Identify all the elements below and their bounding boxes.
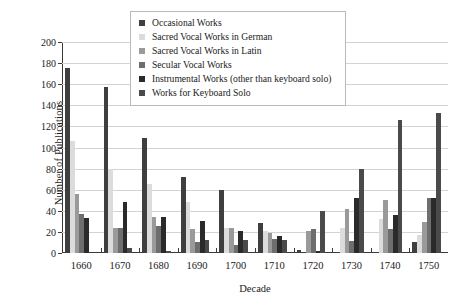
legend-label: Secular Vocal Works — [152, 60, 232, 70]
bars — [62, 42, 101, 253]
legend-swatch-icon — [139, 90, 145, 96]
legend-swatch-icon — [139, 20, 145, 26]
legend-item-4[interactable]: Instrumental Works (other than keyboard … — [139, 72, 339, 86]
bar[interactable] — [243, 240, 248, 253]
bar-group-1660: 1660 — [62, 42, 101, 253]
bar[interactable] — [127, 248, 132, 253]
y-tick-label: 80 — [46, 163, 56, 174]
legend-item-1[interactable]: Sacred Vocal Works in German — [139, 30, 339, 44]
y-tick-label: 120 — [41, 121, 56, 132]
x-tick-mark — [409, 248, 410, 253]
bar[interactable] — [297, 250, 302, 253]
y-tick-mark — [58, 253, 62, 254]
bars — [409, 42, 448, 253]
y-tick-label: 100 — [41, 142, 56, 153]
x-tick-label: 1740 — [380, 260, 401, 271]
bar[interactable] — [205, 240, 210, 253]
legend-swatch-icon — [139, 76, 145, 82]
bar[interactable] — [398, 120, 403, 253]
y-tick-label: 20 — [46, 226, 56, 237]
y-tick-label: 180 — [41, 58, 56, 69]
legend-item-2[interactable]: Sacred Vocal Works in Latin — [139, 44, 339, 58]
x-tick-mark — [255, 248, 256, 253]
x-tick-mark — [371, 248, 372, 253]
legend-item-0[interactable]: Occasional Works — [139, 16, 339, 30]
bar[interactable] — [436, 113, 441, 253]
x-tick-label: 1700 — [225, 260, 246, 271]
bar[interactable] — [161, 217, 166, 253]
bar[interactable] — [320, 211, 325, 253]
bar[interactable] — [123, 202, 128, 253]
legend-swatch-icon — [139, 34, 145, 40]
x-tick-label: 1750 — [418, 260, 439, 271]
x-tick-label: 1690 — [187, 260, 208, 271]
x-tick-mark — [332, 248, 333, 253]
bar[interactable] — [359, 169, 364, 253]
publications-bar-chart: Number of Publications 02040608010012014… — [0, 0, 453, 306]
legend-label: Instrumental Works (other than keyboard … — [152, 74, 331, 84]
bar-group-1740: 1740 — [371, 42, 410, 253]
bar-group-1750: 1750 — [409, 42, 448, 253]
legend-swatch-icon — [139, 62, 145, 68]
x-tick-mark — [139, 248, 140, 253]
bar[interactable] — [311, 229, 316, 253]
bar[interactable] — [282, 240, 287, 253]
legend-label: Works for Keyboard Solo — [152, 88, 251, 98]
x-tick-mark — [101, 248, 102, 253]
x-tick-label: 1680 — [148, 260, 169, 271]
y-tick-label: 200 — [41, 37, 56, 48]
legend-item-5[interactable]: Works for Keyboard Solo — [139, 86, 339, 100]
y-tick-label: 40 — [46, 205, 56, 216]
legend-label: Sacred Vocal Works in Latin — [152, 46, 262, 56]
y-tick-label: 140 — [41, 100, 56, 111]
bar[interactable] — [166, 251, 171, 253]
x-tick-label: 1660 — [71, 260, 92, 271]
y-tick-label: 160 — [41, 79, 56, 90]
legend-label: Occasional Works — [152, 18, 222, 28]
x-tick-label: 1710 — [264, 260, 285, 271]
x-tick-mark — [294, 248, 295, 253]
legend-swatch-icon — [139, 48, 145, 54]
y-tick-label: 60 — [46, 184, 56, 195]
bar[interactable] — [84, 218, 89, 253]
bars — [371, 42, 410, 253]
x-axis-title: Decade — [62, 283, 448, 294]
legend-item-3[interactable]: Secular Vocal Works — [139, 58, 339, 72]
x-tick-mark — [216, 248, 217, 253]
x-tick-label: 1730 — [341, 260, 362, 271]
x-tick-label: 1720 — [302, 260, 323, 271]
x-tick-label: 1670 — [109, 260, 130, 271]
legend: Occasional WorksSacred Vocal Works in Ge… — [130, 11, 346, 106]
y-tick-label: 0 — [51, 248, 56, 259]
x-tick-mark — [178, 248, 179, 253]
legend-label: Sacred Vocal Works in German — [152, 32, 272, 42]
